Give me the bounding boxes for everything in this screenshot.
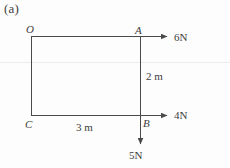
force-label-4n: 4N (174, 110, 187, 121)
figure-container: (a) O A B C 6N 4N 5N 2 m 3 m (0, 0, 230, 168)
vertex-label-b: B (143, 118, 150, 129)
force-label-6n: 6N (174, 32, 187, 43)
dimension-label-3m: 3 m (76, 122, 93, 133)
vertex-label-c: C (25, 119, 32, 130)
force-label-5n: 5N (129, 150, 142, 161)
dimension-label-2m: 2 m (146, 71, 163, 82)
vertex-label-o: O (26, 24, 34, 35)
vertex-label-a: A (135, 25, 142, 36)
force-diagram-svg (0, 0, 230, 168)
